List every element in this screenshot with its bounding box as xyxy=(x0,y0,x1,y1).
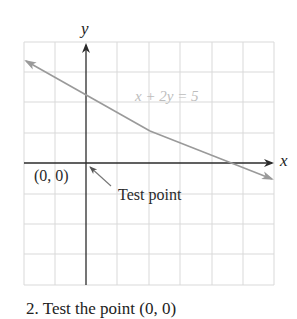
x-axis-label: x xyxy=(280,151,288,171)
caption-text: 2. Test the point (0, 0) xyxy=(26,299,176,319)
test-point-label: Test point xyxy=(118,186,181,204)
equation-label: x + 2y = 5 xyxy=(135,88,199,105)
y-axis-label: y xyxy=(81,19,89,39)
origin-label: (0, 0) xyxy=(34,167,69,185)
test-point-arrow xyxy=(90,167,111,186)
